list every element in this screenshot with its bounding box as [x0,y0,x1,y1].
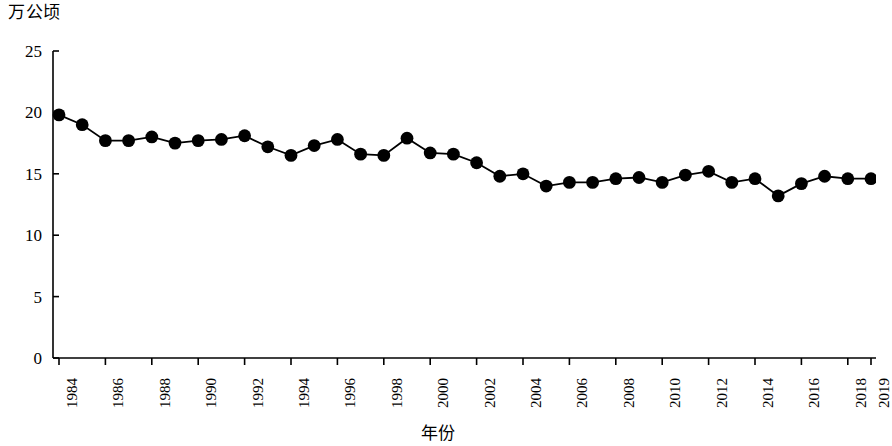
data-point [540,180,553,193]
data-point [192,134,205,147]
data-point [795,177,808,190]
data-point [285,149,298,162]
series-markers [53,108,876,202]
data-point [215,133,228,146]
data-point [818,170,831,183]
data-point [447,148,460,161]
data-point [679,169,692,182]
data-point [586,176,599,189]
x-tick-label: 2019 [877,378,892,408]
data-point [725,176,738,189]
data-point [702,165,715,178]
x-axis-title: 年份 [0,424,876,444]
data-point [749,172,762,185]
data-point [99,134,112,147]
data-point [424,147,437,160]
data-point [377,149,390,162]
data-point [53,108,66,121]
data-point [865,172,876,185]
data-point [563,176,576,189]
data-point [841,172,854,185]
data-point [122,134,135,147]
data-point [517,167,530,180]
data-point [76,118,89,131]
data-point [308,139,321,152]
data-point [656,176,669,189]
data-point [169,137,182,150]
data-point [633,171,646,184]
data-point [331,133,344,146]
data-point [401,132,414,145]
series-line [59,115,871,196]
data-point [238,129,251,142]
data-point [772,190,785,203]
data-point [261,140,274,153]
axis-lines [53,51,876,358]
data-point [145,131,158,144]
data-point [493,170,506,183]
data-point [609,172,622,185]
axis-ticks [53,51,871,365]
data-point [354,148,367,161]
data-point [470,156,483,169]
